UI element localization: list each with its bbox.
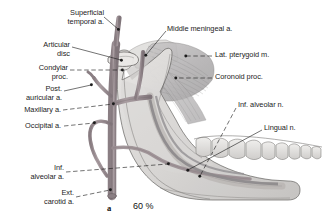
label-inferior-alveolar-nerve: Inf. alveolar n. bbox=[238, 101, 326, 110]
mandibular-teeth bbox=[194, 136, 322, 160]
label-lingual-nerve: Lingual n. bbox=[264, 124, 328, 133]
label-inferior-alveolar-artery: Inf. alveolar a. bbox=[6, 164, 64, 181]
label-occipital-artery: Occipital a. bbox=[0, 122, 61, 131]
label-superficial-temporal-artery: Superficial temporal a. bbox=[22, 9, 104, 26]
label-maxillary-artery: Maxillary a. bbox=[0, 106, 61, 115]
label-condylar-process: Condylar proc. bbox=[8, 64, 68, 81]
scale-label: 60 % bbox=[133, 201, 154, 211]
label-middle-meningeal-artery: Middle meningeal a. bbox=[167, 25, 259, 34]
label-external-carotid-artery: Ext. carotid a. bbox=[16, 189, 74, 206]
label-articular-disc: Articular disc bbox=[12, 41, 70, 58]
label-lateral-pterygoid-muscle: Lat. pterygoid m. bbox=[215, 51, 307, 60]
figure-panel: Superficial temporal a. Articular disc C… bbox=[0, 0, 330, 224]
panel-letter: a bbox=[107, 203, 111, 213]
label-coronoid-process: Coronoid proc. bbox=[215, 73, 305, 82]
label-posterior-auricular-artery: Post. auricular a. bbox=[2, 85, 62, 102]
